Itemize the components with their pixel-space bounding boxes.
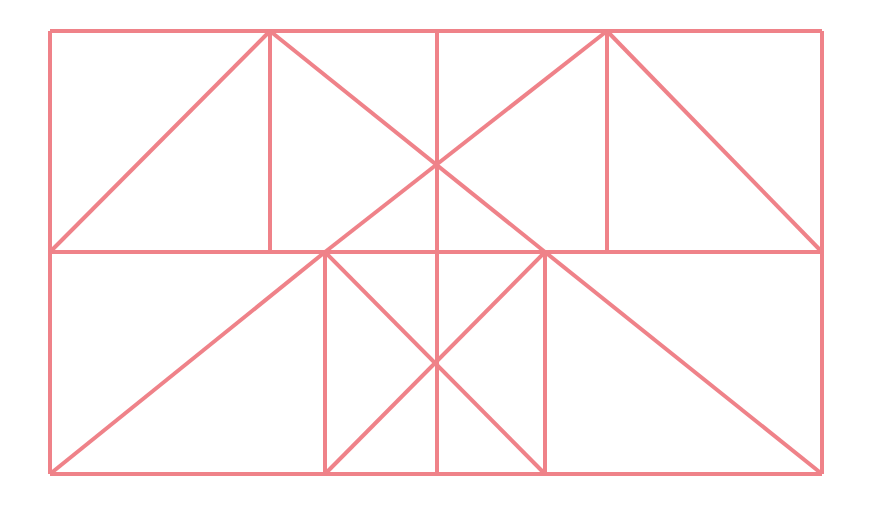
figure-background — [0, 0, 869, 509]
geometric-figure — [0, 0, 869, 509]
